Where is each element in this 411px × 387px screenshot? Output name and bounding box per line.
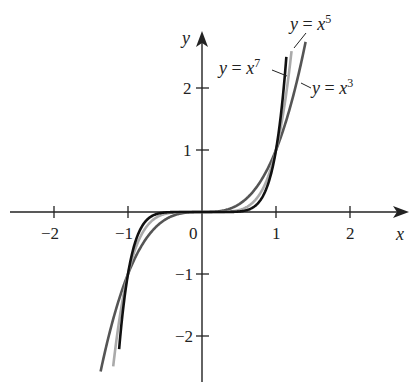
- curves: [101, 42, 306, 372]
- y-tick-label: −1: [175, 265, 193, 284]
- x-tick-label: −1: [115, 224, 133, 243]
- curve-x7: [119, 57, 286, 349]
- label-x3: y = x3: [310, 76, 353, 98]
- y-tick-label: −2: [175, 327, 193, 346]
- y-axis-label: y: [180, 28, 190, 48]
- power-functions-chart: −2−1012−2−112 x y y = x5 y = x7 y = x3: [0, 0, 411, 387]
- leader-line-x3: [301, 83, 311, 88]
- curve-x3: [101, 42, 306, 372]
- x-tick-label: 1: [272, 224, 281, 243]
- y-tick-label: 1: [183, 141, 192, 160]
- y-tick-label: 2: [183, 79, 192, 98]
- x-axis-label: x: [395, 224, 404, 244]
- x-tick-label: −2: [41, 224, 59, 243]
- x-tick-label: 0: [189, 224, 198, 243]
- label-x7: y = x7: [217, 56, 260, 78]
- x-tick-label: 2: [346, 224, 355, 243]
- label-x5: y = x5: [288, 12, 331, 34]
- y-axis: [196, 31, 208, 382]
